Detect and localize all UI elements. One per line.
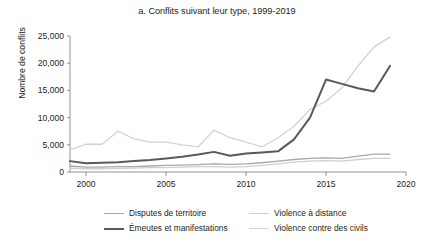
x-tick-label: 2015 bbox=[316, 179, 335, 189]
y-tick-label: 10,000 bbox=[38, 113, 65, 123]
data-series-group bbox=[70, 37, 390, 169]
y-tick-label: 0 bbox=[59, 167, 64, 177]
plot-area: 05,00010,00015,00020,00025,000 200020052… bbox=[0, 0, 434, 200]
series-line bbox=[70, 37, 390, 150]
legend-swatch-line-icon bbox=[249, 213, 269, 214]
y-tick-label: 25,000 bbox=[38, 31, 65, 41]
series-line bbox=[70, 66, 390, 163]
legend-item[interactable]: Émeutes et manifestations bbox=[104, 224, 249, 232]
legend-item-label: Émeutes et manifestations bbox=[129, 224, 228, 232]
legend-item-label: Violence contre des civils bbox=[274, 224, 368, 232]
x-tick-label: 2005 bbox=[156, 179, 175, 189]
y-tick-label: 20,000 bbox=[38, 58, 65, 68]
y-tick-label: 15,000 bbox=[38, 85, 65, 95]
legend-swatch-line-icon bbox=[249, 228, 269, 229]
y-tick-label: 5,000 bbox=[42, 140, 64, 150]
legend-item[interactable]: Violence contre des civils bbox=[249, 224, 404, 232]
x-axis-ticks: 20002005201020152020 bbox=[76, 172, 415, 189]
legend-item-label: Disputes de territoire bbox=[129, 209, 206, 217]
x-tick-label: 2010 bbox=[236, 179, 255, 189]
x-tick-label: 2020 bbox=[396, 179, 415, 189]
legend-swatch-line-icon bbox=[104, 228, 124, 230]
x-tick-label: 2000 bbox=[76, 179, 95, 189]
chart-figure: a. Conflits suivant leur type, 1999-2019… bbox=[0, 0, 434, 247]
legend-item[interactable]: Disputes de territoire bbox=[104, 209, 249, 217]
legend-item-label: Violence à distance bbox=[274, 209, 346, 217]
chart-legend: Disputes de territoireViolence à distanc… bbox=[104, 206, 404, 236]
legend-item[interactable]: Violence à distance bbox=[249, 209, 404, 217]
legend-swatch-line-icon bbox=[104, 213, 124, 214]
y-axis-ticks: 05,00010,00015,00020,00025,000 bbox=[38, 31, 70, 177]
